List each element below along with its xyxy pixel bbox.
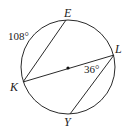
circle-diagram: E L K Y 108° 36° <box>0 0 128 127</box>
chord-KE <box>23 20 66 82</box>
angle-measure-L: 36° <box>84 63 99 75</box>
label-K: K <box>9 80 19 94</box>
label-Y: Y <box>64 115 72 127</box>
label-E: E <box>63 6 72 20</box>
label-L: L <box>114 42 122 56</box>
center-dot <box>66 66 69 69</box>
arc-measure-KE: 108° <box>8 30 29 42</box>
